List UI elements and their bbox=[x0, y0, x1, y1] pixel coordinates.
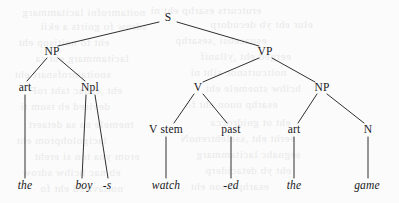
tree-node-np1: NP bbox=[44, 46, 59, 58]
tree-edges bbox=[0, 0, 399, 203]
tree-node-npl: Npl bbox=[81, 82, 99, 94]
tree-edge-np1-to-art1 bbox=[27, 58, 47, 81]
syntax-tree-figure: noitamrofni lacitammargerutcurts esarhp … bbox=[0, 0, 399, 203]
tree-edge-npl-to-boy bbox=[82, 95, 86, 178]
tree-edge-s-to-np1 bbox=[58, 22, 159, 46]
terminal-node-the2: the bbox=[287, 180, 302, 192]
tree-node-art1: art bbox=[19, 82, 32, 94]
tree-edge-vp-to-np2 bbox=[272, 58, 315, 82]
tree-node-n: N bbox=[364, 124, 373, 136]
terminal-node-ed: -ed bbox=[223, 180, 238, 192]
terminal-node-the1: the bbox=[18, 180, 33, 192]
terminal-node-game: game bbox=[354, 180, 380, 192]
terminal-node-s: -s bbox=[103, 180, 112, 192]
tree-edge-v-to-vstem bbox=[174, 94, 194, 123]
tree-edge-np2-to-art2 bbox=[298, 94, 317, 123]
terminal-node-boy: boy bbox=[75, 180, 92, 192]
terminal-node-watch: watch bbox=[152, 180, 180, 192]
tree-node-np2: NP bbox=[314, 82, 329, 94]
tree-node-vstem: V stem bbox=[149, 124, 183, 136]
tree-edge-s-to-vp bbox=[177, 22, 259, 46]
tree-edge-np2-to-n bbox=[327, 94, 364, 123]
tree-edge-v-to-past bbox=[203, 94, 227, 123]
tree-edge-vp-to-v bbox=[203, 58, 259, 82]
tree-node-art2: art bbox=[288, 124, 301, 136]
tree-node-s: S bbox=[165, 12, 172, 24]
tree-node-past: past bbox=[221, 124, 240, 136]
tree-edge-npl-to-s bbox=[95, 95, 108, 178]
tree-edge-np1-to-npl bbox=[58, 58, 85, 81]
tree-node-vp: VP bbox=[257, 46, 272, 58]
tree-node-v: V bbox=[194, 82, 203, 94]
